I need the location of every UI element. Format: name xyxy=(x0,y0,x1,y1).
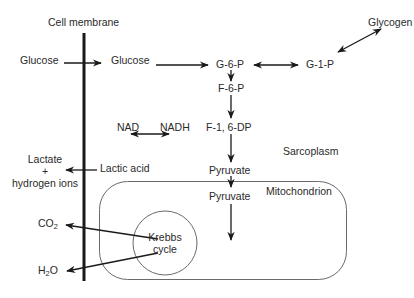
glucose-outside-label: Glucose xyxy=(20,54,59,66)
nadh-label: NADH xyxy=(160,121,190,133)
pyruvate-sarcoplasm-label: Pyruvate xyxy=(209,164,250,176)
krebbs-line-1: Krebbs xyxy=(145,231,185,243)
nad-label: NAD xyxy=(117,121,139,133)
g1p-glycogen-double-arrow xyxy=(338,29,381,52)
h2o-label: H2O xyxy=(38,264,58,280)
krebbs-to-h2o-arrow xyxy=(67,253,158,271)
pyruvate-mitochondrion-label: Pyruvate xyxy=(209,190,250,202)
krebbs-line-2: cycle xyxy=(145,243,185,255)
co2-label: CO2 xyxy=(38,217,58,233)
g1p-label: G-1-P xyxy=(306,58,334,70)
lactate-line-1: Lactate xyxy=(5,153,85,165)
diagram-lines xyxy=(0,0,414,298)
sarcoplasm-label: Sarcoplasm xyxy=(283,145,338,157)
glycolysis-diagram: Cell membrane Glucose Glucose G-6-P G-1-… xyxy=(0,0,414,298)
co2-main: CO xyxy=(38,217,54,229)
lactic-acid-label: Lactic acid xyxy=(100,162,150,174)
g6p-label: G-6-P xyxy=(216,58,244,70)
glucose-inside-label: Glucose xyxy=(111,54,150,66)
h2o-h: H xyxy=(38,264,46,276)
mitochondrion-label: Mitochondrion xyxy=(266,185,332,197)
lactate-label: Lactate + hydrogen ions xyxy=(5,153,85,189)
cell-membrane-label: Cell membrane xyxy=(48,16,119,28)
co2-subscript: 2 xyxy=(54,222,58,231)
f6p-label: F-6-P xyxy=(218,82,244,94)
krebbs-cycle-label: Krebbs cycle xyxy=(145,231,185,255)
f16dp-label: F-1, 6-DP xyxy=(206,121,252,133)
h2o-o: O xyxy=(50,264,58,276)
lactate-line-2: + xyxy=(5,165,85,177)
lactate-line-3: hydrogen ions xyxy=(5,177,85,189)
glycogen-label: Glycogen xyxy=(368,16,412,28)
